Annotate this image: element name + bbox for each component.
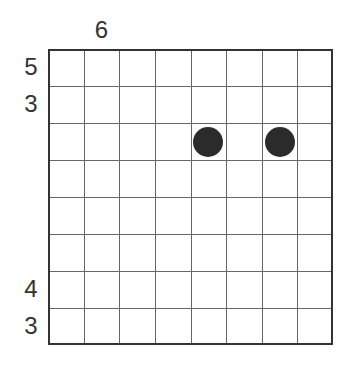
- grid-cell[interactable]: [297, 160, 333, 197]
- grid-cell[interactable]: [262, 271, 298, 308]
- grid-cell[interactable]: [155, 308, 191, 345]
- grid-cell[interactable]: [155, 49, 191, 86]
- grid-cell[interactable]: [297, 123, 333, 160]
- grid-cell[interactable]: [155, 197, 191, 234]
- grid-cell[interactable]: [48, 308, 84, 345]
- grid-cell[interactable]: [262, 197, 298, 234]
- grid-cell[interactable]: [119, 86, 155, 123]
- grid-cell[interactable]: [226, 49, 262, 86]
- grid-cell[interactable]: [119, 160, 155, 197]
- grid-cell[interactable]: [155, 86, 191, 123]
- grid-cell[interactable]: [226, 123, 262, 160]
- black-stone-icon[interactable]: [265, 127, 295, 157]
- grid-cell[interactable]: [191, 86, 227, 123]
- grid-cell[interactable]: [84, 160, 120, 197]
- grid-cell[interactable]: [226, 197, 262, 234]
- grid-cell[interactable]: [84, 86, 120, 123]
- grid-cell[interactable]: [119, 197, 155, 234]
- row-clue: 3: [16, 92, 46, 116]
- grid-cell[interactable]: [191, 271, 227, 308]
- grid-cell[interactable]: [262, 86, 298, 123]
- grid-cell[interactable]: [48, 123, 84, 160]
- grid-cell[interactable]: [191, 49, 227, 86]
- grid-cell[interactable]: [48, 271, 84, 308]
- grid-cell[interactable]: [297, 197, 333, 234]
- grid-cell[interactable]: [226, 86, 262, 123]
- grid-cell[interactable]: [119, 123, 155, 160]
- row-clue: 5: [16, 55, 46, 79]
- grid-cell[interactable]: [297, 86, 333, 123]
- grid-cell[interactable]: [84, 197, 120, 234]
- grid-cell[interactable]: [84, 123, 120, 160]
- grid-cell[interactable]: [191, 234, 227, 271]
- grid-cell[interactable]: [226, 271, 262, 308]
- row-clue: 4: [16, 277, 46, 301]
- grid-cell[interactable]: [262, 234, 298, 271]
- grid-cell[interactable]: [297, 271, 333, 308]
- grid-cell[interactable]: [48, 197, 84, 234]
- grid-cell[interactable]: [226, 160, 262, 197]
- row-clue: 3: [16, 314, 46, 338]
- black-stone-icon[interactable]: [193, 127, 223, 157]
- column-clue: 6: [86, 18, 116, 42]
- grid-cell[interactable]: [262, 49, 298, 86]
- grid-cell[interactable]: [119, 271, 155, 308]
- grid-cell[interactable]: [297, 308, 333, 345]
- grid-cell[interactable]: [262, 308, 298, 345]
- grid-cell[interactable]: [84, 308, 120, 345]
- grid-cell[interactable]: [119, 234, 155, 271]
- grid-cell[interactable]: [226, 308, 262, 345]
- grid-cell[interactable]: [84, 234, 120, 271]
- grid-cell[interactable]: [155, 234, 191, 271]
- grid-cell[interactable]: [48, 160, 84, 197]
- grid-cell[interactable]: [262, 160, 298, 197]
- grid-cell[interactable]: [119, 49, 155, 86]
- grid-cell[interactable]: [155, 271, 191, 308]
- grid-cell[interactable]: [48, 86, 84, 123]
- grid-cell[interactable]: [226, 234, 262, 271]
- grid-cell[interactable]: [155, 123, 191, 160]
- grid-cell[interactable]: [119, 308, 155, 345]
- grid-cell[interactable]: [191, 160, 227, 197]
- grid-cell[interactable]: [155, 160, 191, 197]
- grid-cell[interactable]: [297, 49, 333, 86]
- grid-cell[interactable]: [84, 49, 120, 86]
- grid-cell[interactable]: [191, 197, 227, 234]
- grid-cell[interactable]: [191, 308, 227, 345]
- grid-cell[interactable]: [48, 234, 84, 271]
- grid-cell[interactable]: [84, 271, 120, 308]
- grid-cell[interactable]: [297, 234, 333, 271]
- grid-cell[interactable]: [48, 49, 84, 86]
